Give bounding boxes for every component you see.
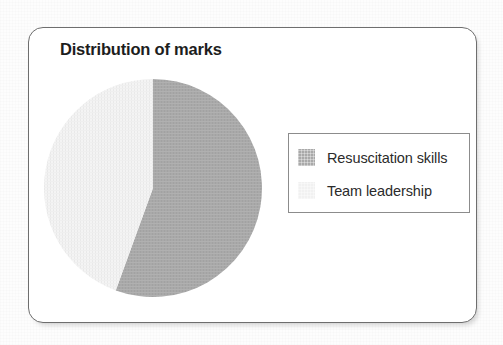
legend-item-label: Resuscitation skills: [327, 150, 448, 166]
legend-item-resuscitation-skills[interactable]: Resuscitation skills: [289, 141, 469, 174]
page-title: Distribution of marks: [60, 40, 222, 59]
chart-legend: Resuscitation skills Team leadership: [288, 133, 470, 213]
legend-swatch-icon: [298, 149, 315, 166]
legend-swatch-icon: [298, 182, 315, 199]
pie-chart: [44, 79, 262, 297]
legend-item-team-leadership[interactable]: Team leadership: [289, 174, 469, 207]
pie-chart-svg: [44, 79, 262, 297]
legend-item-label: Team leadership: [327, 183, 432, 199]
